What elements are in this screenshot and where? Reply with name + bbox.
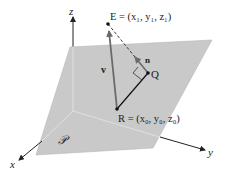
point-q-label: Q	[151, 68, 159, 80]
x-axis-label: x	[9, 158, 15, 170]
point-r	[115, 107, 119, 111]
z-axis-label: z	[68, 5, 74, 17]
y-axis	[160, 137, 205, 150]
distance-to-plane-diagram: z x y E = (x₁, y₁, z₁) Q R = (x₀, y₀, z₀…	[0, 0, 225, 179]
point-e	[106, 22, 110, 26]
point-r-label: R = (x₀, y₀, z₀)	[118, 113, 180, 125]
y-axis-label: y	[207, 146, 213, 158]
point-q	[146, 71, 150, 75]
point-e-label: E = (x₁, y₁, z₁)	[110, 11, 172, 23]
vector-v-label: v	[101, 64, 106, 75]
vector-n-label: n	[145, 55, 150, 65]
